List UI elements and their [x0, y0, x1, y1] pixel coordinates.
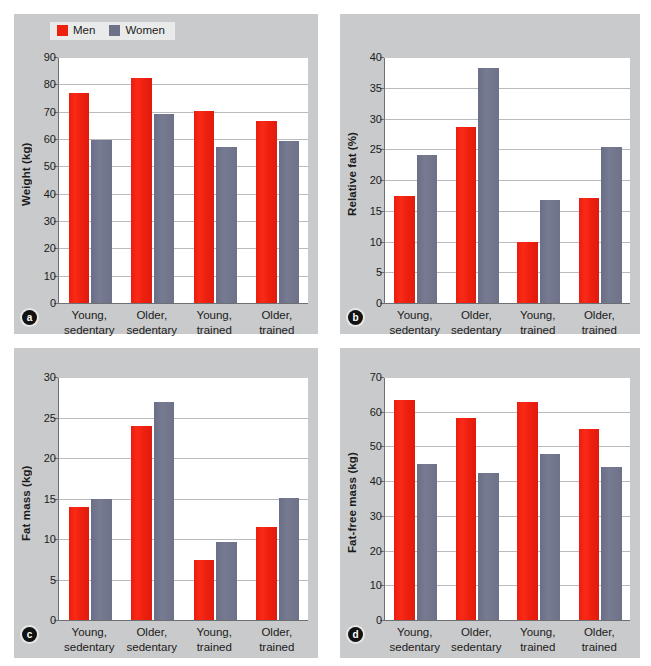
plot-area-c [58, 378, 308, 621]
bar-women [601, 467, 622, 620]
y-tick-label: 40 [370, 475, 382, 487]
bar-men [394, 400, 415, 620]
x-category-label: Older, trained [246, 308, 309, 338]
panel-tag-d: d [348, 627, 363, 642]
y-tick-label: 25 [370, 143, 382, 155]
bar-women [216, 542, 237, 620]
y-tick-label: 40 [44, 188, 56, 200]
x-category-label: Young, sedentary [384, 625, 446, 655]
bar-men [517, 402, 538, 620]
plot-area-b [384, 58, 630, 304]
y-tick-label: 10 [370, 236, 382, 248]
y-tick-label: 50 [44, 160, 56, 172]
y-tick-label: 0 [50, 614, 56, 626]
y-tick-label: 20 [44, 242, 56, 254]
legend-entry-men: Men [57, 25, 95, 37]
y-axis-label-c: Fat mass (kg) [20, 423, 32, 583]
x-category-label: Older, trained [569, 308, 631, 338]
y-tick-label: 30 [44, 371, 56, 383]
panel-a: Men Women Weight (kg) Young, sedentaryOl… [14, 14, 318, 334]
panel-d: Fat-free mass (kg) Young, sedentaryOlder… [340, 348, 640, 658]
y-tick-label: 0 [376, 614, 382, 626]
y-tick-label: 70 [44, 106, 56, 118]
y-tick-label: 35 [370, 82, 382, 94]
y-tick-label: 0 [376, 297, 382, 309]
women-color-swatch [109, 25, 120, 36]
bar-men [131, 78, 152, 304]
y-axis-label-a: Weight (kg) [20, 94, 32, 254]
bar-men [131, 426, 152, 620]
y-tick-label: 10 [44, 270, 56, 282]
x-category-label: Young, trained [183, 625, 246, 655]
y-tick-label: 20 [44, 452, 56, 464]
bar-women [540, 454, 561, 620]
x-category-label: Older, sedentary [446, 625, 508, 655]
bar-women [154, 114, 175, 303]
plot-canvas-d [384, 378, 630, 621]
bars-layer-b [385, 58, 630, 303]
x-category-label: Young, trained [183, 308, 246, 338]
x-axis-categories-b: Young, sedentaryOlder, sedentaryYoung, t… [384, 308, 630, 338]
y-tick-label: 20 [370, 545, 382, 557]
y-tick-label: 60 [370, 406, 382, 418]
bar-men [456, 418, 477, 620]
figure-multipanel-bar-charts: Men Women Weight (kg) Young, sedentaryOl… [0, 0, 651, 666]
bar-men [517, 242, 538, 304]
y-axis-label-b: Relative fat (%) [346, 84, 358, 264]
x-category-label: Older, sedentary [121, 308, 184, 338]
legend-label-men: Men [73, 25, 95, 37]
bar-women [478, 473, 499, 620]
bar-men [394, 196, 415, 303]
y-tick-label: 80 [44, 78, 56, 90]
x-category-label: Young, sedentary [384, 308, 446, 338]
bar-men [456, 127, 477, 303]
y-tick-label: 20 [370, 174, 382, 186]
bar-men [579, 429, 600, 620]
bar-men [194, 560, 215, 620]
plot-canvas-b [384, 58, 630, 304]
x-category-label: Young, trained [507, 308, 569, 338]
y-tick-label: 5 [376, 266, 382, 278]
legend-label-women: Women [125, 25, 164, 37]
y-tick-label: 25 [44, 412, 56, 424]
x-category-label: Young, sedentary [58, 308, 121, 338]
y-axis-label-d: Fat-free mass (kg) [346, 413, 358, 593]
legend: Men Women [50, 22, 175, 40]
plot-area-a [58, 58, 308, 304]
bar-men [194, 111, 215, 303]
y-tick-label: 50 [370, 440, 382, 452]
bar-women [478, 68, 499, 303]
panel-tag-a: a [22, 310, 37, 325]
panel-tag-b: b [348, 310, 363, 325]
legend-entry-women: Women [109, 25, 164, 37]
bar-men [579, 198, 600, 303]
x-category-label: Older, trained [569, 625, 631, 655]
panel-tag-c: c [22, 627, 37, 642]
x-axis-categories-d: Young, sedentaryOlder, sedentaryYoung, t… [384, 625, 630, 655]
x-category-label: Young, trained [507, 625, 569, 655]
y-tick-label: 10 [44, 533, 56, 545]
x-category-label: Older, sedentary [121, 625, 184, 655]
y-tick-label: 30 [44, 215, 56, 227]
bar-women [540, 200, 561, 303]
x-category-label: Older, sedentary [446, 308, 508, 338]
bar-women [417, 155, 438, 303]
y-tick-label: 15 [370, 205, 382, 217]
bar-women [279, 498, 300, 620]
bar-women [91, 140, 112, 303]
bar-women [417, 464, 438, 620]
bar-women [216, 147, 237, 303]
y-tick-label: 30 [370, 510, 382, 522]
panel-b: Relative fat (%) Young, sedentaryOlder, … [340, 14, 640, 334]
x-axis-categories-a: Young, sedentaryOlder, sedentaryYoung, t… [58, 308, 308, 338]
panel-c: Fat mass (kg) Young, sedentaryOlder, sed… [14, 348, 318, 658]
men-color-swatch [57, 25, 68, 36]
y-tick-label: 30 [370, 113, 382, 125]
y-tick-label: 15 [44, 493, 56, 505]
bar-men [256, 527, 277, 620]
y-tick-label: 60 [44, 133, 56, 145]
bars-layer-a [59, 58, 308, 303]
plot-canvas-a [58, 58, 308, 304]
x-category-label: Young, sedentary [58, 625, 121, 655]
x-category-label: Older, trained [246, 625, 309, 655]
